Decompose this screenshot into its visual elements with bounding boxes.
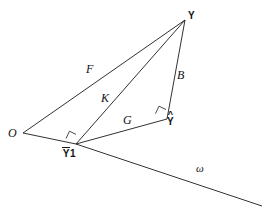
vertex-label-Ybar1: Y 1: [62, 147, 76, 159]
vertex-label-Ybar1-subscript: 1: [70, 148, 76, 159]
segment-F: [23, 20, 185, 133]
segment-label-F: F: [86, 62, 93, 77]
segment-label-K: K: [101, 91, 109, 106]
vertex-label-Y: Y: [188, 10, 195, 21]
segment-label-B: B: [177, 68, 184, 83]
right-angle-at-Ybar1-icon: [66, 131, 76, 138]
axis-line-omega: [76, 144, 262, 206]
vertex-label-Yhat-letter: Y: [167, 117, 174, 127]
geometry-canvas: [0, 0, 269, 213]
right-angle-at-Yhat-icon: [156, 106, 167, 113]
segment-label-G: G: [123, 113, 132, 128]
vertex-label-Yhat: ^ Y: [167, 112, 174, 127]
ybar-glyph: Y: [62, 147, 70, 159]
geometry-figure: O Y 1 ^ Y Y F K G B ω: [0, 0, 269, 213]
vertex-label-O: O: [8, 126, 17, 141]
axis-label-omega: ω: [196, 162, 204, 174]
vertex-label-Ybar1-letter: Y: [63, 149, 70, 159]
segment-G: [76, 119, 167, 144]
